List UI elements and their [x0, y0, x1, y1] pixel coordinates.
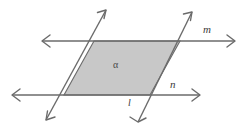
parallelogram-alpha-region: [64, 41, 180, 95]
figure-canvas: [0, 0, 248, 129]
line-m-label: m: [203, 24, 211, 35]
geometry-figure: m n l α: [0, 0, 248, 129]
region-alpha-label: α: [113, 60, 118, 70]
line-n-label: n: [170, 79, 176, 90]
transversal-right-bottom-arrowhead: [130, 117, 146, 122]
line-l-label: l: [128, 98, 131, 108]
